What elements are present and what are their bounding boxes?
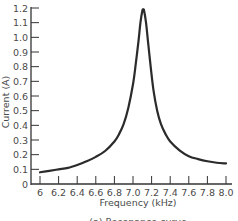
x-axis-ticks: 66.26.46.66.87.07.27.47.67.88.0 — [37, 176, 234, 198]
y-tick-label: 0.2 — [13, 149, 28, 160]
y-axis-title: Current (A) — [0, 76, 11, 129]
x-tick-label: 6.4 — [70, 187, 85, 198]
y-tick-label: 1.2 — [13, 3, 28, 14]
x-tick-label: 6.2 — [51, 187, 66, 198]
y-tick-label: 0.3 — [13, 135, 28, 146]
y-tick-label: 0.9 — [13, 47, 28, 58]
y-tick-label: 0.6 — [13, 91, 28, 102]
x-tick-label: 8.0 — [218, 187, 233, 198]
figure-caption: (a) Resonance curve — [89, 216, 187, 221]
resonance-chart: 00.10.20.30.40.50.60.70.80.91.01.11.2 66… — [0, 0, 238, 221]
y-tick-label: 1.0 — [13, 32, 28, 43]
y-tick-label: 0.4 — [13, 120, 28, 131]
y-axis-ticks: 00.10.20.30.40.50.60.70.80.91.01.11.2 — [13, 3, 39, 190]
x-axis-title: Frequency (kHz) — [99, 197, 176, 208]
x-tick-label: 7.6 — [181, 187, 196, 198]
y-tick-label: 0.8 — [13, 61, 28, 72]
x-tick-label: 6 — [37, 187, 43, 198]
y-tick-label: 0.1 — [13, 164, 28, 175]
x-tick-label: 7.8 — [200, 187, 215, 198]
y-tick-label: 0.7 — [13, 76, 28, 87]
y-tick-label: 0.5 — [13, 105, 28, 116]
y-tick-label: 1.1 — [13, 17, 28, 28]
series-line-current — [40, 9, 226, 172]
y-tick-label: 0 — [22, 179, 28, 190]
